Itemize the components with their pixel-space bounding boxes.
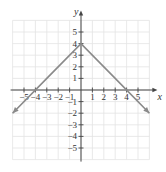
x-tick-label: 3	[113, 92, 118, 102]
y-tick-label: −1	[67, 97, 77, 107]
x-tick-label: −3	[42, 92, 52, 102]
y-tick-label: −5	[67, 143, 77, 153]
y-axis-arrow-icon	[79, 10, 83, 15]
x-tick-label: 1	[90, 92, 95, 102]
graph-plot: −5−4−3−2−112345−5−4−3−2−112345 x y	[0, 0, 166, 172]
y-tick-label: −3	[67, 120, 77, 130]
y-tick-label: 2	[73, 62, 78, 72]
y-axis-label: y	[73, 6, 79, 17]
axes	[11, 10, 158, 161]
y-tick-label: 5	[73, 27, 78, 37]
x-tick-label: −2	[53, 92, 63, 102]
x-tick-label: 2	[102, 92, 107, 102]
y-tick-label: −4	[67, 131, 77, 141]
x-axis-label: x	[156, 91, 162, 102]
y-tick-label: 1	[73, 73, 78, 83]
y-tick-label: −2	[67, 108, 77, 118]
x-tick-label: 4	[124, 92, 129, 102]
